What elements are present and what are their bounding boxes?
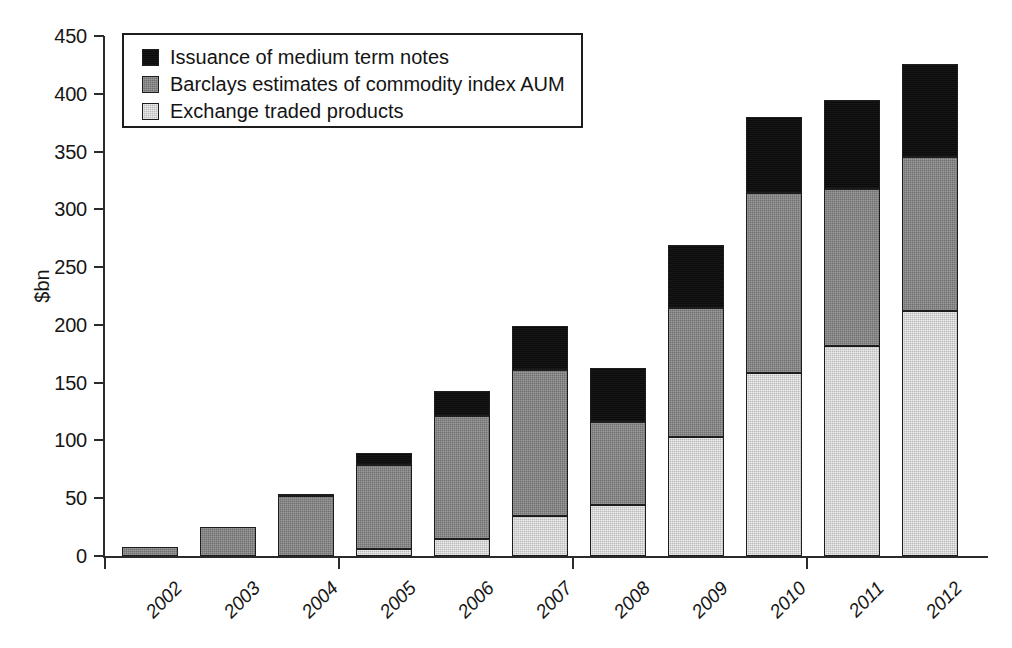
x-label-2009: 2009 (678, 578, 731, 631)
bar-segment-2009-barclays-estimates-of-commodity-index-aum[interactable] (668, 308, 724, 437)
bar-segment-2011-barclays-estimates-of-commodity-index-aum[interactable] (824, 189, 880, 346)
bar-segment-2010-barclays-estimates-of-commodity-index-aum[interactable] (746, 193, 802, 373)
legend-item-1[interactable]: Issuance of medium term notes (142, 44, 581, 70)
y-tick-label-200: 200 (33, 315, 87, 335)
x-axis-line (103, 556, 988, 558)
bar-segment-2003-barclays-estimates-of-commodity-index-aum[interactable] (200, 527, 256, 556)
stacked-bar-chart: $bn 050100150200250300350400450 20022003… (0, 0, 1012, 648)
y-tick-300 (94, 208, 104, 210)
x-label-2012: 2012 (912, 578, 965, 631)
y-tick-150 (94, 382, 104, 384)
bar-segment-2008-exchange-traded-products[interactable] (590, 505, 646, 556)
bar-segment-2005-barclays-estimates-of-commodity-index-aum[interactable] (356, 465, 412, 549)
y-tick-label-150: 150 (33, 373, 87, 393)
y-tick-350 (94, 151, 104, 153)
x-label-2005: 2005 (366, 578, 419, 631)
y-tick-label-250: 250 (33, 257, 87, 277)
x-label-2006: 2006 (444, 578, 497, 631)
y-tick-label-350: 350 (33, 142, 87, 162)
x-label-2010: 2010 (756, 578, 809, 631)
bar-segment-2006-issuance-of-medium-term-notes[interactable] (434, 391, 490, 416)
x-tick-3 (338, 558, 340, 569)
y-tick-450 (94, 35, 104, 37)
legend-item-2[interactable]: Barclays estimates of commodity index AU… (142, 71, 581, 97)
bar-segment-2009-issuance-of-medium-term-notes[interactable] (668, 245, 724, 307)
bar-segment-2005-exchange-traded-products[interactable] (356, 549, 412, 556)
legend-label-2: Barclays estimates of commodity index AU… (170, 73, 565, 95)
x-label-2004: 2004 (288, 578, 341, 631)
bar-segment-2007-barclays-estimates-of-commodity-index-aum[interactable] (512, 370, 568, 516)
x-label-2002: 2002 (132, 578, 185, 631)
bar-segment-2008-barclays-estimates-of-commodity-index-aum[interactable] (590, 422, 646, 505)
black-swatch-icon (142, 49, 159, 66)
bar-segment-2011-issuance-of-medium-term-notes[interactable] (824, 100, 880, 189)
bar-segment-2012-exchange-traded-products[interactable] (902, 311, 958, 556)
x-tick-9 (806, 558, 808, 569)
x-label-2007: 2007 (522, 578, 575, 631)
y-tick-0 (94, 555, 104, 557)
bar-segment-2011-exchange-traded-products[interactable] (824, 346, 880, 556)
bar-segment-2002-barclays-estimates-of-commodity-index-aum[interactable] (122, 547, 178, 556)
y-tick-400 (94, 93, 104, 95)
y-tick-label-0: 0 (33, 546, 87, 566)
bar-segment-2010-exchange-traded-products[interactable] (746, 373, 802, 556)
bar-2012[interactable] (902, 36, 958, 556)
bar-2008[interactable] (590, 36, 646, 556)
bar-2009[interactable] (668, 36, 724, 556)
bar-segment-2006-barclays-estimates-of-commodity-index-aum[interactable] (434, 416, 490, 538)
x-label-2008: 2008 (600, 578, 653, 631)
y-tick-label-50: 50 (33, 488, 87, 508)
bar-segment-2007-issuance-of-medium-term-notes[interactable] (512, 326, 568, 370)
bar-segment-2007-exchange-traded-products[interactable] (512, 516, 568, 556)
y-tick-200 (94, 324, 104, 326)
y-tick-100 (94, 439, 104, 441)
y-tick-label-450: 450 (33, 26, 87, 46)
mid-gray-swatch-icon (142, 76, 159, 93)
legend-item-3[interactable]: Exchange traded products (142, 98, 581, 124)
legend-label-3: Exchange traded products (170, 100, 404, 122)
chart-legend: Issuance of medium term notesBarclays es… (122, 33, 583, 128)
bar-segment-2008-issuance-of-medium-term-notes[interactable] (590, 368, 646, 422)
y-tick-50 (94, 497, 104, 499)
bar-segment-2009-exchange-traded-products[interactable] (668, 437, 724, 556)
y-tick-label-400: 400 (33, 84, 87, 104)
y-tick-250 (94, 266, 104, 268)
y-tick-label-300: 300 (33, 199, 87, 219)
bar-segment-2010-issuance-of-medium-term-notes[interactable] (746, 117, 802, 193)
x-tick-6 (572, 558, 574, 569)
bar-segment-2012-issuance-of-medium-term-notes[interactable] (902, 64, 958, 158)
bar-segment-2012-barclays-estimates-of-commodity-index-aum[interactable] (902, 157, 958, 311)
x-label-2003: 2003 (210, 578, 263, 631)
bar-segment-2005-issuance-of-medium-term-notes[interactable] (356, 453, 412, 465)
bar-segment-2004-issuance-of-medium-term-notes[interactable] (278, 494, 334, 496)
light-gray-swatch-icon (142, 103, 159, 120)
bar-2010[interactable] (746, 36, 802, 556)
bar-segment-2006-exchange-traded-products[interactable] (434, 539, 490, 556)
y-tick-label-100: 100 (33, 430, 87, 450)
x-label-2011: 2011 (834, 578, 887, 631)
x-tick-0 (104, 558, 106, 569)
bar-2011[interactable] (824, 36, 880, 556)
bar-segment-2004-barclays-estimates-of-commodity-index-aum[interactable] (278, 496, 334, 556)
legend-label-1: Issuance of medium term notes (170, 46, 449, 68)
